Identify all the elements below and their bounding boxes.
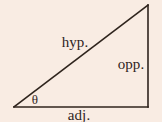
right-triangle-diagram: hyp. opp. adj. θ: [0, 0, 162, 122]
opposite-label: opp.: [118, 57, 145, 72]
theta-angle-label: θ: [32, 93, 38, 106]
adjacent-label: adj.: [68, 108, 90, 123]
hypotenuse-label: hyp.: [62, 35, 89, 50]
